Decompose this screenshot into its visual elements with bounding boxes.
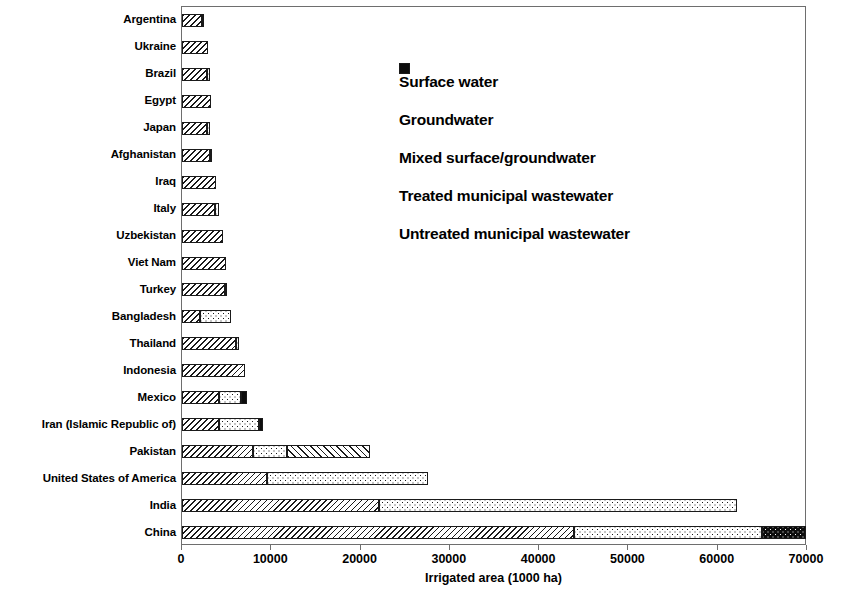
bar-segment [267,472,429,485]
bar-segment [182,122,207,135]
bar-row [182,472,807,485]
bar-segment [379,499,737,512]
x-axis-tick-label: 10000 [253,552,288,566]
chart-legend: Surface waterGroundwaterMixed surface/gr… [399,63,630,253]
y-axis-label: Uzbekistan [0,229,176,241]
legend-item: Untreated municipal wastewater [399,215,630,253]
bar-segment [210,149,213,162]
bar-segment [182,14,202,27]
bar-segment [182,149,210,162]
y-axis-label: Egypt [0,94,176,106]
bar-segment [219,418,260,431]
x-axis-tick-label: 40000 [521,552,556,566]
bar-segment [241,391,247,404]
y-axis-label: Iraq [0,175,176,187]
bar-segment [182,95,211,108]
bar-segment [182,418,219,431]
x-axis-tick [270,545,271,550]
bar-row [182,418,807,431]
bar-row [182,526,807,539]
bar-row [182,283,807,296]
bar-segment [182,391,219,404]
chart-figure: ArgentinaUkraineBrazilEgyptJapanAfghanis… [0,0,842,595]
bar-segment [202,14,205,27]
y-axis-label: Iran (Islamic Republic of) [0,418,176,430]
legend-item-label: Groundwater [399,111,493,129]
y-axis-label: Mexico [0,391,176,403]
x-axis-tick [538,545,539,550]
x-axis-tick [717,545,718,550]
bar-row [182,337,807,350]
y-axis-label: Thailand [0,337,176,349]
bar-segment [182,526,574,539]
bar-segment [762,526,806,539]
bar-segment [287,445,370,458]
y-axis-label: Ukraine [0,40,176,52]
bar-segment [182,257,226,270]
bar-segment [182,310,200,323]
bar-segment [182,283,225,296]
x-axis-tick [181,545,182,550]
x-axis-tick-label: 30000 [431,552,466,566]
bar-segment [182,41,208,54]
y-axis-label: Japan [0,121,176,133]
legend-item-label: Untreated municipal wastewater [399,225,630,243]
legend-item-label: Treated municipal wastewater [399,187,613,205]
y-axis-label: Bangladesh [0,310,176,322]
y-axis-label: Afghanistan [0,148,176,160]
legend-item: Groundwater [399,101,630,139]
bar-segment [182,68,207,81]
bar-segment [225,283,227,296]
legend-item: Treated municipal wastewater [399,177,630,215]
bar-segment [182,337,236,350]
y-axis-label: Pakistan [0,445,176,457]
bar-segment [207,122,210,135]
x-axis-tick [627,545,628,550]
x-axis-tick [360,545,361,550]
bar-segment [574,526,762,539]
bar-segment [236,337,239,350]
y-axis-label: India [0,499,176,511]
bar-segment [215,203,219,216]
x-axis-tick [449,545,450,550]
y-axis-label: Italy [0,202,176,214]
bar-segment [182,176,216,189]
bar-segment [182,499,379,512]
y-axis-label: Brazil [0,67,176,79]
bar-row [182,41,807,54]
x-axis-tick-label: 20000 [342,552,377,566]
bar-row [182,257,807,270]
bar-segment [182,472,267,485]
bar-row [182,364,807,377]
x-axis-title: Irrigated area (1000 ha) [181,571,806,585]
bar-row [182,499,807,512]
bar-segment [253,445,287,458]
x-axis-tick [806,545,807,550]
bar-segment [182,445,253,458]
legend-swatch-untreated-icon [399,63,410,74]
x-axis-tick-label: 0 [178,552,185,566]
legend-item-label: Surface water [399,73,498,91]
bar-segment [219,391,241,404]
bar-segment [207,68,210,81]
bar-segment [259,418,263,431]
bar-row [182,391,807,404]
bar-row [182,310,807,323]
bar-row [182,14,807,27]
bar-segment [200,310,231,323]
bar-row [182,445,807,458]
y-axis-label: China [0,526,176,538]
bar-segment [182,203,215,216]
legend-item: Surface water [399,63,630,101]
y-axis-label: Viet Nam [0,256,176,268]
x-axis-tick-label: 50000 [610,552,645,566]
y-axis-label: Turkey [0,283,176,295]
x-axis-tick-label: 70000 [789,552,824,566]
y-axis-label: Argentina [0,13,176,25]
bar-segment [182,230,223,243]
y-axis-category-labels: ArgentinaUkraineBrazilEgyptJapanAfghanis… [0,6,176,545]
bar-segment [182,364,245,377]
y-axis-label: Indonesia [0,364,176,376]
y-axis-label: United States of America [0,472,176,484]
x-axis-tick-label: 60000 [699,552,734,566]
